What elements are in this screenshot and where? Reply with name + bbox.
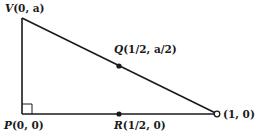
label-v-name: V xyxy=(5,2,13,14)
right-angle-marker xyxy=(22,104,32,114)
label-q: Q(1/2, a/2) xyxy=(114,44,177,55)
label-v: V(0, a) xyxy=(5,3,45,14)
endpoint-open-circle xyxy=(214,111,220,117)
label-r-coords: (1/2, 0) xyxy=(123,119,166,131)
label-v-coords: (0, a) xyxy=(13,2,44,14)
label-endpoint-coords: (1, 0) xyxy=(223,108,255,120)
label-r: R(1/2, 0) xyxy=(114,120,166,131)
label-q-name: Q xyxy=(114,43,123,55)
label-endpoint: (1, 0) xyxy=(223,109,255,120)
label-p-name: P xyxy=(4,119,12,131)
point-q-dot xyxy=(116,63,121,68)
triangle-diagram: V(0, a) Q(1/2, a/2) P(0, 0) R(1/2, 0) (1… xyxy=(0,0,256,139)
label-p-coords: (0, 0) xyxy=(12,119,44,131)
label-q-coords: (1/2, a/2) xyxy=(123,43,177,55)
point-r-dot xyxy=(116,111,121,116)
label-p: P(0, 0) xyxy=(4,120,44,131)
label-r-name: R xyxy=(114,119,123,131)
